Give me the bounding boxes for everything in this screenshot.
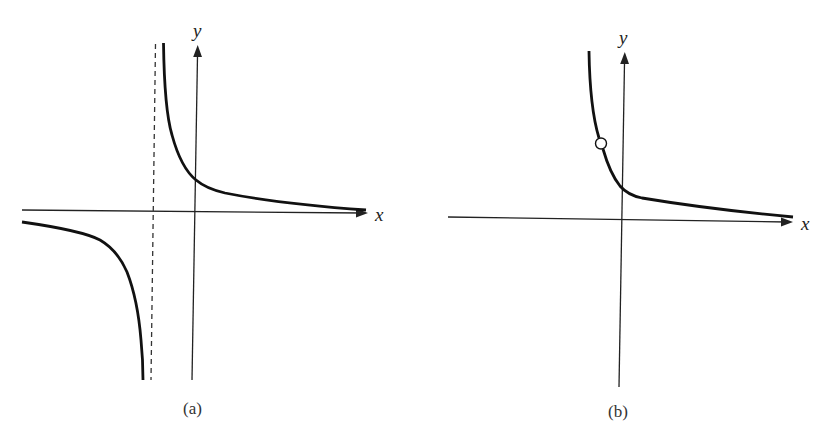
panel-a-y-axis <box>192 56 198 380</box>
panel-b-y-axis-label: y <box>617 27 628 48</box>
panel-b-curve-lower <box>603 149 793 217</box>
panel-a: x y (a) <box>22 20 384 418</box>
panel-a-y-axis-label: y <box>191 20 202 41</box>
panel-a-x-axis <box>22 210 362 213</box>
panel-b-hole-marker <box>596 138 607 149</box>
panel-b-x-axis-label: x <box>800 213 810 234</box>
panel-b: x y (b) <box>448 27 810 421</box>
panel-a-label: (a) <box>183 399 202 418</box>
panel-a-x-axis-label: x <box>374 204 384 225</box>
panel-a-right-branch-curve <box>164 43 367 210</box>
panel-b-x-axis <box>448 217 787 222</box>
panel-b-y-axis <box>619 63 625 387</box>
figure: x y (a) x y (b) <box>0 0 830 441</box>
panel-b-x-axis-arrow-icon <box>781 218 793 227</box>
panel-a-left-branch-curve <box>22 222 143 380</box>
panel-a-y-axis-arrow-icon <box>193 45 202 57</box>
panel-b-label: (b) <box>608 402 628 421</box>
panel-b-curve-upper <box>589 51 599 138</box>
panel-b-y-axis-arrow-icon <box>620 52 629 64</box>
panel-a-vertical-asymptote <box>151 44 156 380</box>
